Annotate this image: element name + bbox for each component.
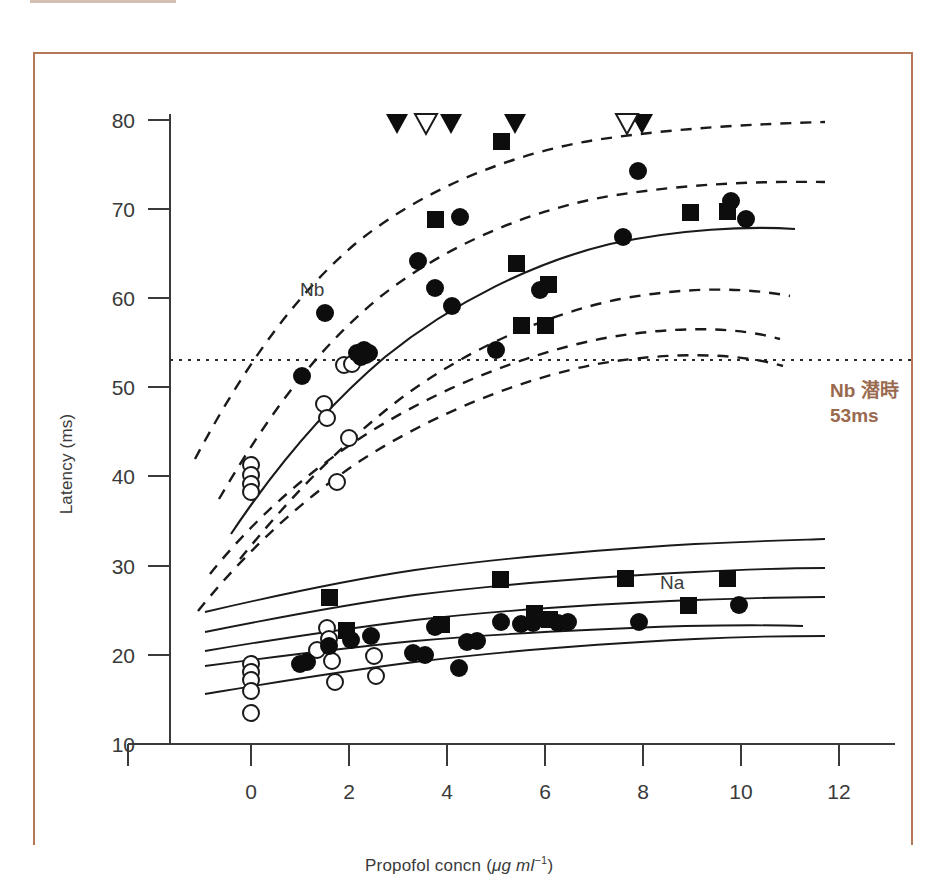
- x-tick-6: 6: [539, 780, 551, 803]
- threshold-annotation-line1: Nb 潜時: [830, 379, 899, 404]
- axes: 80 70 60 50 40 30 20 10: [112, 109, 895, 803]
- y-axis-label: Latency (ms): [57, 414, 77, 515]
- figure-frame: 80 70 60 50 40 30 20 10: [33, 52, 913, 845]
- threshold-annotation-line2: 53ms: [830, 404, 899, 429]
- series-label-nb: Nb: [300, 279, 324, 301]
- x-axis-label-prefix: Propofol concn (: [365, 856, 492, 875]
- x-tick-12: 12: [827, 780, 850, 803]
- y-tick-60: 60: [112, 287, 135, 310]
- x-tick-8: 8: [637, 780, 649, 803]
- y-tick-40: 40: [112, 465, 135, 488]
- x-tick-4: 4: [441, 780, 453, 803]
- x-axis-label-exponent: −1: [534, 854, 547, 866]
- nb-data-markers: [243, 114, 755, 500]
- x-tick-10: 10: [729, 780, 752, 803]
- scatter-plot: 80 70 60 50 40 30 20 10: [35, 54, 915, 847]
- x-axis-label: Propofol concn (μg ml−1): [365, 854, 553, 876]
- nb-band-outer-aux: [210, 329, 780, 574]
- y-tick-70: 70: [112, 198, 135, 221]
- y-tick-80: 80: [112, 109, 135, 132]
- threshold-annotation: Nb 潜時 53ms: [830, 379, 899, 428]
- x-axis-label-unit: μg ml: [492, 856, 534, 875]
- x-tick-0: 0: [245, 780, 257, 803]
- nb-mean-curve: [231, 228, 795, 534]
- na-filled-circles: [291, 596, 748, 677]
- x-axis-ticks: [128, 744, 839, 766]
- y-tick-10: 10: [112, 733, 135, 756]
- y-axis-tick-labels: 80 70 60 50 40 30 20 10: [112, 109, 135, 756]
- x-axis-tick-labels: 0 2 4 6 8 10 12: [245, 780, 851, 803]
- x-axis-label-suffix: ): [547, 856, 553, 875]
- nb-filled-squares: [427, 133, 736, 334]
- page-top-strip: [30, 0, 176, 3]
- series-label-na: Na: [660, 572, 684, 594]
- x-tick-2: 2: [343, 780, 355, 803]
- y-tick-20: 20: [112, 644, 135, 667]
- y-tick-30: 30: [112, 555, 135, 578]
- y-tick-50: 50: [112, 376, 135, 399]
- y-axis-ticks: [148, 120, 170, 744]
